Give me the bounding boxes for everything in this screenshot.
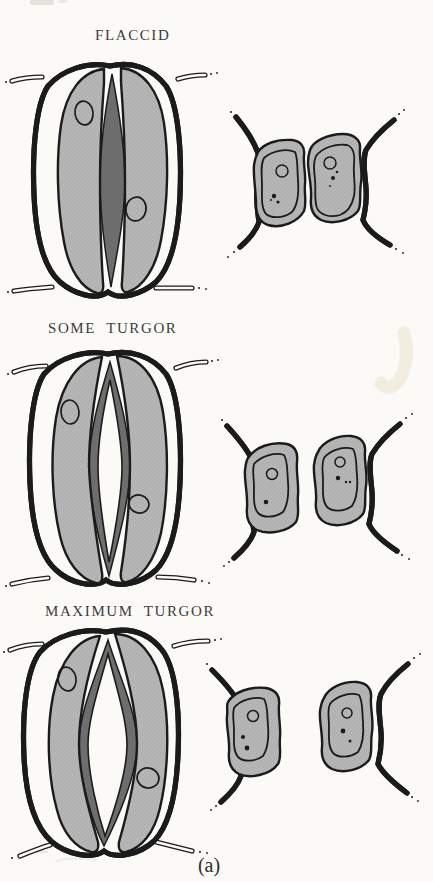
some-turgor-section-view	[221, 413, 413, 567]
flaccid-label: FLACCID	[95, 27, 170, 43]
epidermal-flank-right	[378, 653, 421, 802]
panel-flaccid: FLACCID	[5, 27, 405, 296]
maximum-turgor-section-view	[206, 653, 421, 811]
pencil-smudge	[56, 859, 96, 861]
some-turgor-label: SOME TURGOR	[48, 320, 177, 336]
cytoplasm-dots	[264, 500, 269, 505]
stomata-turgor-diagram: FLACCID	[0, 0, 433, 882]
flaccid-surface-view	[5, 64, 218, 296]
figure-caption: (a)	[198, 854, 220, 877]
textbook-page: FLACCID	[0, 0, 433, 882]
guard-cell-left	[58, 69, 104, 293]
epidermal-flank-right	[369, 413, 413, 560]
epidermal-flank-right	[363, 109, 405, 254]
stoma-closed	[100, 74, 125, 287]
maximum-turgor-label: MAXIMUM TURGOR	[45, 603, 215, 619]
maximum-turgor-surface-view	[3, 630, 222, 859]
section-cell-left	[245, 443, 298, 532]
panel-some-turgor: SOME TURGOR	[5, 320, 413, 587]
page-edge-artifact	[30, 0, 54, 5]
guard-cell-right	[121, 68, 167, 292]
page-edge-artifact	[58, 0, 67, 3]
panel-maximum-turgor: MAXIMUM TURGOR	[3, 603, 421, 859]
highlighter-mark	[381, 333, 406, 387]
flaccid-section-view	[227, 109, 405, 258]
some-turgor-surface-view	[5, 352, 219, 587]
